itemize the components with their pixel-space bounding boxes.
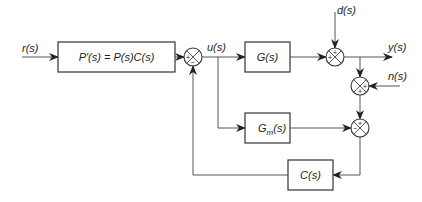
wire-sum4-to-c (333, 137, 360, 175)
summing-junction-1: + − (184, 48, 202, 66)
signal-y-label: y(s) (387, 41, 407, 53)
block-c-label: C(s) (300, 169, 321, 181)
block-pprime-label: P'(s) = P(s)C(s) (79, 51, 155, 63)
wire-u-to-gm (218, 57, 245, 128)
block-g: G(s) (245, 42, 290, 72)
sum1-sign-plus: + (186, 54, 190, 61)
sum2-sign-top: + (333, 49, 337, 56)
signal-u-label: u(s) (207, 41, 226, 53)
block-g-label: G(s) (257, 51, 279, 63)
block-gm: Gm(s) (245, 113, 290, 143)
summing-junction-3: + + (351, 77, 369, 95)
sum3-sign-right: + (363, 83, 367, 90)
signal-d-label: d(s) (337, 4, 356, 16)
sum3-sign-bottom: + (358, 88, 362, 95)
signal-r-label: r(s) (22, 42, 39, 54)
block-pprime: P'(s) = P(s)C(s) (58, 42, 175, 72)
summing-junction-4: + − (351, 119, 369, 137)
sum4-sign-left: − (353, 125, 357, 132)
sum1-sign-minus: − (191, 59, 195, 66)
sum4-sign-top: + (358, 120, 362, 127)
summing-junction-2: + + (326, 48, 344, 66)
block-c: C(s) (288, 160, 333, 190)
block-diagram: r(s) P'(s) = P(s)C(s) + − u(s) G(s) d(s)… (0, 0, 422, 202)
sum2-sign-left: + (328, 54, 332, 61)
signal-n-label: n(s) (388, 70, 407, 82)
